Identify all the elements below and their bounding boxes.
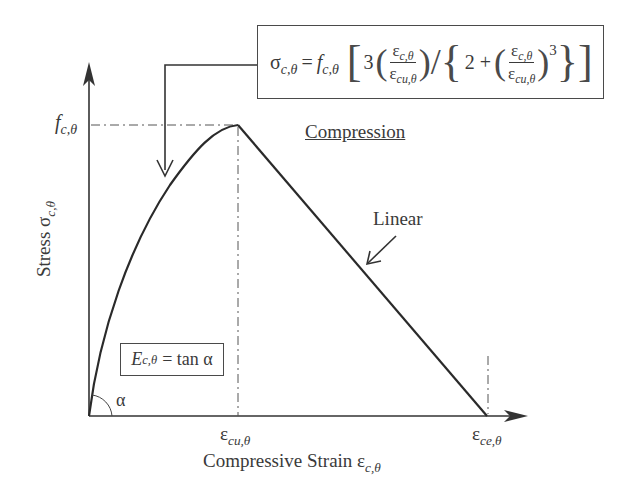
modulus-rhs: = tan α	[162, 349, 213, 370]
close-bracket: ]	[578, 40, 593, 84]
strain-ratio-fraction: εc,θ εcu,θ	[389, 41, 416, 84]
x-tick-ecu: εcu,θ	[220, 423, 250, 445]
open-paren: (	[375, 44, 387, 80]
strain-ratio-fraction-2: εc,θ εcu,θ	[508, 41, 535, 84]
linear-pointer-line	[368, 236, 396, 263]
alpha-arc	[92, 395, 112, 416]
stress-equation-box: σc,θ = fc,θ [ 3 ( εc,θ εcu,θ ) / { 2 + (…	[257, 25, 604, 99]
equation-coef: 3	[363, 51, 373, 74]
close-brace: }	[557, 40, 578, 84]
close-paren: )	[419, 44, 431, 80]
equation-lhs: σc,θ	[270, 51, 297, 74]
division-slash: /	[431, 44, 441, 80]
y-tick-fc: fc,θ	[55, 111, 77, 134]
modulus-symbol: E	[131, 349, 142, 370]
equation-two-plus: 2 +	[465, 51, 491, 74]
descending-linear-branch	[238, 125, 487, 416]
chart-title: Compression	[305, 121, 405, 143]
equation-f: fc,θ	[317, 51, 339, 74]
close-paren-2: )	[537, 44, 549, 80]
equation-connector-line	[165, 65, 257, 170]
equation-equals: =	[301, 51, 312, 74]
open-bracket: [	[347, 40, 362, 84]
x-tick-ece: εce,θ	[472, 423, 502, 445]
linear-label: Linear	[373, 208, 423, 230]
open-brace: {	[441, 40, 462, 84]
x-axis-label: Compressive Strain εc,θ	[203, 450, 381, 472]
alpha-label: α	[116, 390, 125, 411]
modulus-box: Ec,θ = tan α	[120, 343, 224, 376]
y-axis-label: Stress σc,θ	[33, 179, 55, 299]
open-paren-2: (	[494, 44, 506, 80]
